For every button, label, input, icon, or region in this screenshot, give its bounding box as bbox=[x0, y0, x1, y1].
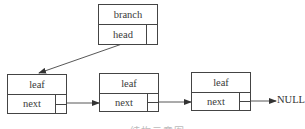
next-label: next bbox=[8, 98, 56, 109]
null-terminal: NULL bbox=[277, 94, 305, 105]
branch-head-field: head bbox=[99, 24, 157, 44]
leaf-next-field: next bbox=[100, 93, 158, 111]
leaf-title: leaf bbox=[192, 73, 250, 93]
leaf-node-3: leaf next bbox=[191, 72, 251, 111]
next-label: next bbox=[100, 97, 148, 108]
next-label: next bbox=[192, 96, 240, 107]
next-pointer-cell bbox=[55, 94, 66, 113]
next-pointer-cell bbox=[239, 92, 250, 110]
leaf-title: leaf bbox=[8, 75, 66, 95]
next-pointer-cell bbox=[147, 93, 158, 111]
leaf-title: leaf bbox=[100, 74, 158, 94]
branch-node: branch head bbox=[98, 4, 158, 45]
branch-title: branch bbox=[99, 5, 157, 25]
leaf-next-field: next bbox=[8, 94, 66, 113]
figure-caption: 结构示意图 bbox=[130, 123, 185, 129]
leaf-node-2: leaf next bbox=[99, 73, 159, 112]
leaf-node-1: leaf next bbox=[7, 74, 67, 114]
branch-to-leaf1-arrow bbox=[39, 44, 122, 73]
head-label: head bbox=[99, 29, 147, 40]
head-pointer-cell bbox=[146, 24, 157, 44]
leaf-next-field: next bbox=[192, 92, 250, 110]
